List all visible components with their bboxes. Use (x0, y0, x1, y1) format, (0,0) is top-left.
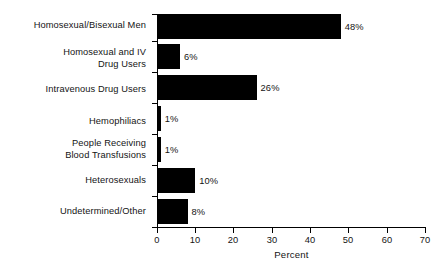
category-label-heterosexuals: Heterosexuals (0, 175, 146, 187)
bar-value-label: 8% (188, 207, 206, 217)
category-label-intravenous-drug-users: Intravenous Drug Users (0, 84, 146, 96)
x-axis-tick-label: 30 (252, 235, 292, 245)
x-axis-tick-label: 50 (328, 235, 368, 245)
x-axis-tick (387, 228, 388, 233)
category-label-homosexual-bisexual-men: Homosexual/Bisexual Men (0, 20, 146, 32)
x-axis-tick-label: 0 (137, 235, 177, 245)
y-axis-tick (152, 14, 157, 15)
y-axis-tick (152, 165, 157, 166)
bar-homosexual-bisexual-men (157, 14, 341, 39)
y-axis-line (157, 14, 158, 228)
y-axis-tick (152, 41, 157, 42)
x-axis-tick-label: 40 (290, 235, 330, 245)
x-axis-tick (233, 228, 234, 233)
x-axis-title: Percent (157, 249, 426, 260)
x-axis-tick (195, 228, 196, 233)
bar-chart: Homosexual/Bisexual Men Homosexual and I… (0, 0, 448, 274)
x-axis-tick (157, 228, 158, 233)
y-axis-tick (152, 196, 157, 197)
bar-value-label: 6% (180, 52, 198, 62)
x-axis-tick (425, 228, 426, 233)
category-label-undetermined-other: Undetermined/Other (0, 206, 146, 218)
x-axis-tick (272, 228, 273, 233)
bar-intravenous-drug-users (157, 75, 257, 100)
y-axis-tick (152, 72, 157, 73)
x-axis-tick-label: 70 (405, 235, 445, 245)
bar-homosexual-and-iv-drug-users (157, 44, 180, 69)
x-axis-tick-label: 60 (367, 235, 407, 245)
x-axis-tick (348, 228, 349, 233)
x-axis-line (157, 227, 426, 228)
bar-undetermined-other (157, 199, 188, 224)
bar-heterosexuals (157, 168, 195, 193)
bar-value-label: 26% (257, 83, 280, 93)
y-axis-tick (152, 103, 157, 104)
category-label-homosexual-and-iv-drug-users: Homosexual and IV Drug Users (0, 47, 146, 70)
plot-area: 48% 6% 26% 1% 1% 10% 8% (157, 14, 425, 226)
bar-value-label: 1% (161, 114, 179, 124)
x-axis-tick-label: 20 (213, 235, 253, 245)
y-axis-tick (152, 134, 157, 135)
category-label-people-receiving-blood-transfusions: People Receiving Blood Transfusions (0, 138, 146, 161)
bar-value-label: 10% (195, 176, 218, 186)
x-axis-tick-label: 10 (175, 235, 215, 245)
x-axis-tick (310, 228, 311, 233)
bar-value-label: 48% (341, 22, 364, 32)
category-label-hemophiliacs: Hemophiliacs (0, 116, 146, 128)
bar-value-label: 1% (161, 145, 179, 155)
